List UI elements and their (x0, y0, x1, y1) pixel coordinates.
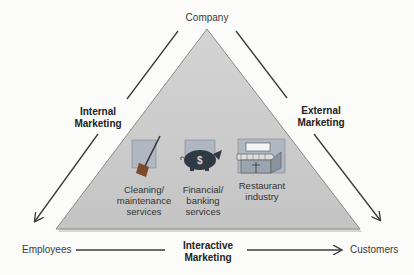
internal-line2: Marketing (70, 118, 126, 130)
external-line2: Marketing (293, 117, 349, 129)
caption-line: Restaurant (227, 180, 297, 191)
interactive-line2: Marketing (178, 252, 238, 264)
example-restaurant: Restaurant industry (227, 180, 297, 202)
vertex-employees: Employees (22, 244, 74, 256)
diagram-canvas: $ (0, 0, 414, 275)
caption-line: industry (227, 191, 297, 202)
vertex-company: Company (182, 12, 232, 24)
interactive-line1: Interactive (178, 240, 238, 252)
external-line1: External (293, 105, 349, 117)
internal-line1: Internal (70, 106, 126, 118)
edge-internal-marketing: Internal Marketing (70, 106, 126, 130)
svg-text:$: $ (197, 155, 203, 166)
edge-interactive-marketing: Interactive Marketing (178, 240, 238, 264)
edge-external-marketing: External Marketing (293, 105, 349, 129)
caption-line: services (168, 206, 238, 217)
vertex-customers: Customers (350, 244, 402, 256)
restaurant-icon (237, 139, 285, 173)
